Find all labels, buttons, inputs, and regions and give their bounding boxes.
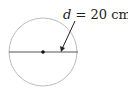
center-point bbox=[41, 50, 45, 54]
diameter-label: d = 20 cm bbox=[63, 8, 128, 22]
diameter-value: = 20 cm bbox=[71, 7, 128, 22]
